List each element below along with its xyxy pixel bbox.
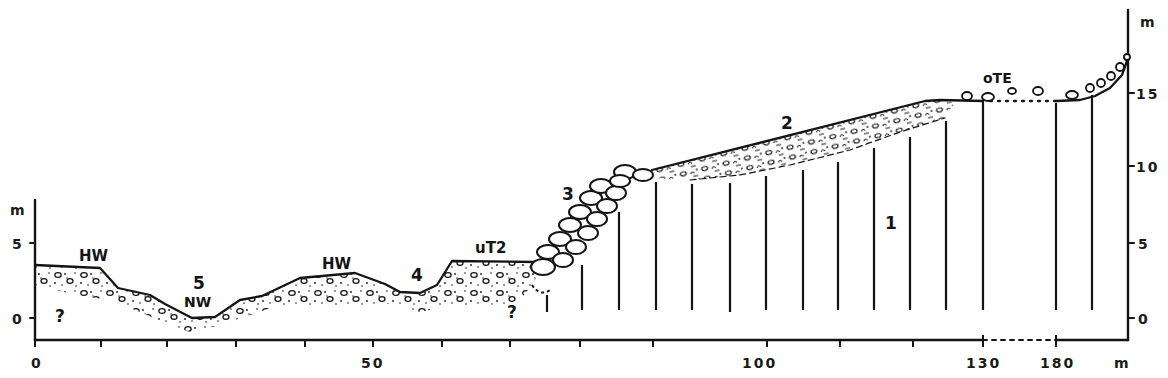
x-axis: 0 50 100 130 180 m (31, 335, 1129, 371)
left-y-unit: m (10, 202, 25, 218)
x-label-100: 100 (742, 355, 777, 371)
label-unit-1: 1 (885, 213, 897, 233)
floodplain-gravel-fill (35, 261, 540, 332)
label-hw-middle: HW (322, 255, 352, 273)
label-ut2: uT2 (475, 239, 506, 257)
left-y-label-0: 0 (12, 311, 24, 327)
label-unit-3: 3 (562, 184, 574, 204)
x-label-0: 0 (31, 355, 43, 371)
floodplain-gravels (35, 261, 540, 332)
right-y-unit: m (1140, 14, 1155, 30)
label-unknown-left: ? (55, 306, 65, 326)
x-label-130: 130 (966, 355, 1001, 371)
label-ote: oTE (983, 70, 1012, 86)
label-unit-4: 4 (411, 265, 423, 285)
right-y-label-5: 5 (1138, 236, 1150, 252)
left-y-label-5: 5 (12, 236, 24, 252)
geological-cross-section: 0 50 100 130 180 m m 5 0 m 15 10 5 0 (0, 0, 1168, 378)
right-y-label-15: 15 (1136, 86, 1159, 102)
right-y-label-10: 10 (1136, 159, 1159, 175)
right-y-axis: m 15 10 5 0 (1128, 10, 1159, 340)
label-unit-2: 2 (781, 113, 793, 133)
x-label-180: 180 (1040, 355, 1075, 371)
x-axis-unit: m (1114, 355, 1129, 371)
terrace-gravel-unit-2 (652, 100, 983, 180)
x-label-50: 50 (361, 355, 384, 371)
left-y-axis: m 5 0 (10, 200, 35, 340)
label-unit-5: 5 (193, 273, 205, 293)
boulder-slope-unit-3 (531, 165, 653, 293)
label-nw: NW (184, 294, 211, 310)
label-hw-left: HW (79, 247, 109, 265)
right-y-label-0: 0 (1138, 311, 1150, 327)
label-unknown-middle: ? (507, 302, 517, 322)
